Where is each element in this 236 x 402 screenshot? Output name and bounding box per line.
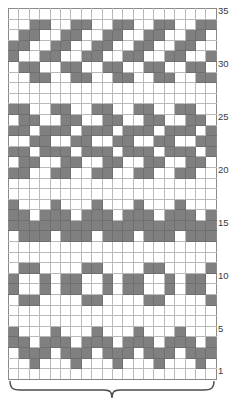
stitch-cell-empty[interactable]	[60, 136, 70, 147]
stitch-cell-empty[interactable]	[185, 326, 195, 337]
stitch-cell-filled[interactable]	[164, 220, 174, 231]
stitch-cell-empty[interactable]	[154, 189, 164, 200]
stitch-cell-empty[interactable]	[154, 305, 164, 316]
stitch-cell-empty[interactable]	[50, 252, 60, 263]
stitch-cell-empty[interactable]	[50, 61, 60, 72]
stitch-cell-empty[interactable]	[206, 369, 216, 380]
stitch-cell-empty[interactable]	[71, 104, 81, 115]
stitch-cell-empty[interactable]	[92, 136, 102, 147]
stitch-cell-empty[interactable]	[164, 9, 174, 20]
stitch-cell-empty[interactable]	[92, 61, 102, 72]
stitch-cell-empty[interactable]	[50, 30, 60, 41]
stitch-cell-filled[interactable]	[175, 51, 185, 62]
stitch-cell-filled[interactable]	[133, 146, 143, 157]
stitch-cell-empty[interactable]	[102, 358, 112, 369]
stitch-cell-filled[interactable]	[60, 231, 70, 242]
stitch-cell-filled[interactable]	[19, 210, 29, 221]
stitch-cell-filled[interactable]	[144, 263, 154, 274]
stitch-cell-empty[interactable]	[9, 242, 19, 253]
stitch-cell-empty[interactable]	[50, 178, 60, 189]
stitch-cell-filled[interactable]	[40, 273, 50, 284]
stitch-cell-empty[interactable]	[185, 72, 195, 83]
stitch-cell-empty[interactable]	[133, 114, 143, 125]
stitch-cell-filled[interactable]	[144, 125, 154, 136]
stitch-cell-filled[interactable]	[81, 146, 91, 157]
stitch-cell-filled[interactable]	[164, 273, 174, 284]
stitch-cell-filled[interactable]	[185, 125, 195, 136]
stitch-cell-empty[interactable]	[102, 263, 112, 274]
stitch-cell-filled[interactable]	[133, 51, 143, 62]
stitch-cell-filled[interactable]	[50, 326, 60, 337]
stitch-cell-filled[interactable]	[102, 61, 112, 72]
stitch-cell-filled[interactable]	[60, 125, 70, 136]
stitch-cell-empty[interactable]	[40, 263, 50, 274]
stitch-cell-empty[interactable]	[19, 93, 29, 104]
stitch-cell-filled[interactable]	[102, 231, 112, 242]
stitch-cell-empty[interactable]	[102, 51, 112, 62]
stitch-cell-empty[interactable]	[164, 263, 174, 274]
stitch-cell-filled[interactable]	[40, 72, 50, 83]
stitch-cell-empty[interactable]	[92, 72, 102, 83]
stitch-cell-empty[interactable]	[144, 284, 154, 295]
stitch-cell-filled[interactable]	[133, 220, 143, 231]
stitch-cell-empty[interactable]	[175, 284, 185, 295]
stitch-cell-empty[interactable]	[9, 348, 19, 359]
stitch-cell-empty[interactable]	[112, 369, 122, 380]
stitch-cell-empty[interactable]	[175, 231, 185, 242]
stitch-cell-empty[interactable]	[60, 72, 70, 83]
stitch-cell-empty[interactable]	[81, 167, 91, 178]
stitch-cell-empty[interactable]	[144, 19, 154, 30]
stitch-cell-empty[interactable]	[185, 252, 195, 263]
stitch-cell-filled[interactable]	[9, 51, 19, 62]
stitch-cell-empty[interactable]	[92, 242, 102, 253]
stitch-cell-filled[interactable]	[102, 30, 112, 41]
stitch-cell-filled[interactable]	[154, 220, 164, 231]
stitch-cell-empty[interactable]	[60, 326, 70, 337]
stitch-cell-empty[interactable]	[19, 83, 29, 94]
stitch-cell-filled[interactable]	[175, 104, 185, 115]
stitch-cell-empty[interactable]	[50, 305, 60, 316]
stitch-cell-empty[interactable]	[112, 242, 122, 253]
stitch-cell-empty[interactable]	[71, 326, 81, 337]
stitch-cell-filled[interactable]	[206, 146, 216, 157]
stitch-cell-filled[interactable]	[133, 199, 143, 210]
stitch-cell-filled[interactable]	[9, 210, 19, 221]
stitch-cell-filled[interactable]	[206, 19, 216, 30]
stitch-cell-empty[interactable]	[144, 252, 154, 263]
stitch-cell-empty[interactable]	[112, 189, 122, 200]
stitch-cell-empty[interactable]	[40, 178, 50, 189]
stitch-cell-empty[interactable]	[164, 189, 174, 200]
stitch-cell-filled[interactable]	[112, 72, 122, 83]
stitch-cell-empty[interactable]	[81, 273, 91, 284]
stitch-cell-empty[interactable]	[154, 40, 164, 51]
stitch-cell-filled[interactable]	[102, 40, 112, 51]
stitch-cell-empty[interactable]	[206, 326, 216, 337]
stitch-cell-filled[interactable]	[144, 210, 154, 221]
stitch-cell-empty[interactable]	[81, 358, 91, 369]
stitch-cell-filled[interactable]	[40, 348, 50, 359]
stitch-cell-filled[interactable]	[19, 295, 29, 306]
stitch-cell-empty[interactable]	[154, 93, 164, 104]
stitch-cell-empty[interactable]	[175, 348, 185, 359]
stitch-cell-filled[interactable]	[92, 146, 102, 157]
stitch-cell-filled[interactable]	[19, 114, 29, 125]
stitch-cell-empty[interactable]	[40, 157, 50, 168]
stitch-cell-filled[interactable]	[102, 210, 112, 221]
stitch-cell-filled[interactable]	[144, 146, 154, 157]
stitch-cell-empty[interactable]	[92, 93, 102, 104]
stitch-cell-empty[interactable]	[144, 316, 154, 327]
stitch-cell-filled[interactable]	[71, 348, 81, 359]
stitch-cell-filled[interactable]	[123, 348, 133, 359]
stitch-cell-empty[interactable]	[123, 295, 133, 306]
stitch-cell-empty[interactable]	[206, 273, 216, 284]
stitch-cell-filled[interactable]	[154, 61, 164, 72]
stitch-cell-empty[interactable]	[60, 369, 70, 380]
stitch-cell-filled[interactable]	[185, 231, 195, 242]
stitch-cell-empty[interactable]	[9, 178, 19, 189]
stitch-cell-empty[interactable]	[196, 189, 206, 200]
stitch-cell-filled[interactable]	[206, 263, 216, 274]
stitch-cell-empty[interactable]	[144, 9, 154, 20]
stitch-cell-empty[interactable]	[133, 30, 143, 41]
stitch-cell-filled[interactable]	[123, 273, 133, 284]
stitch-cell-empty[interactable]	[40, 326, 50, 337]
